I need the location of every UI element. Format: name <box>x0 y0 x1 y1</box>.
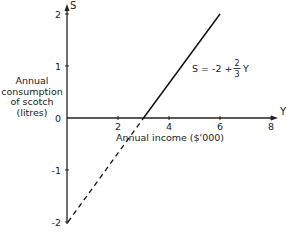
equation-numerator: 2 <box>234 59 239 68</box>
x-axis-label: Annual income ($'000) <box>116 132 224 143</box>
x-tick-label: 2 <box>115 121 121 132</box>
y-axis-label-line: of scotch <box>0 97 64 108</box>
y-tick-label: 2 <box>55 9 61 20</box>
y-tick-label: -1 <box>52 165 61 176</box>
equation-annotation: S = -2 + 2 3 Y <box>192 59 249 79</box>
equation-lhs: S = -2 + <box>192 63 232 74</box>
x-tick-label: 4 <box>166 121 172 132</box>
y-axis-arrow-icon <box>65 4 70 11</box>
equation-variable: Y <box>242 63 249 74</box>
y-axis-label: Annual consumption of scotch (litres) <box>0 76 64 118</box>
y-tick-label: -2 <box>52 217 61 228</box>
y-axis-label-line: (litres) <box>0 108 64 119</box>
y-axis-symbol: S <box>70 0 76 11</box>
x-axis-arrow-icon <box>271 116 278 121</box>
equation-denominator: 3 <box>234 70 239 79</box>
y-axis-label-line: Annual <box>0 76 64 87</box>
y-tick-label: 1 <box>55 61 61 72</box>
x-tick-label: 8 <box>268 121 274 132</box>
x-axis-symbol: Y <box>279 106 287 117</box>
x-tick-label: 6 <box>217 121 223 132</box>
